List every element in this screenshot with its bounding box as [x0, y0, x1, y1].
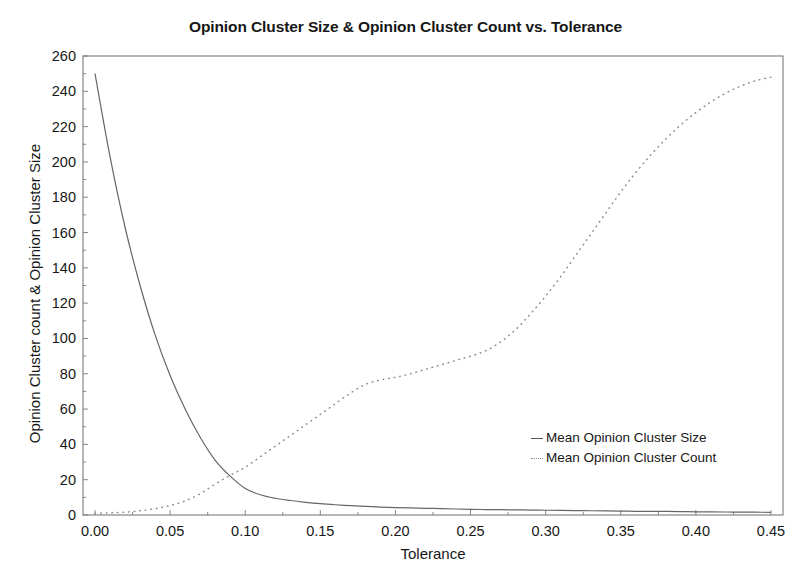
legend-line-dotted-icon — [530, 452, 544, 464]
chart-figure: Opinion Cluster Size & Opinion Cluster C… — [0, 0, 811, 579]
legend-item-mean-opinion-cluster-size: Mean Opinion Cluster Size — [530, 428, 716, 448]
legend-line-solid-icon — [530, 432, 544, 444]
plot-area — [0, 0, 811, 579]
legend-item-mean-opinion-cluster-count: Mean Opinion Cluster Count — [530, 448, 716, 468]
page-caption-fragment — [0, 566, 811, 579]
legend-label-size: Mean Opinion Cluster Size — [546, 431, 707, 445]
chart-legend: Mean Opinion Cluster Size Mean Opinion C… — [530, 428, 716, 468]
legend-label-count: Mean Opinion Cluster Count — [546, 451, 716, 465]
